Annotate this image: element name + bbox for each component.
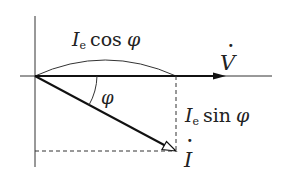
sin-component-label: Iesinφ [184, 104, 250, 128]
cos-component-arc [35, 60, 176, 76]
angle-label: φ [101, 87, 114, 108]
phasor-diagram: Iecosφ φ Iesinφ · V · I [0, 0, 287, 189]
current-label: I [183, 148, 193, 172]
current-arrowhead-icon [162, 142, 176, 152]
cos-component-label: Iecosφ [71, 28, 141, 52]
angle-arc [89, 76, 97, 105]
voltage-label: V [220, 51, 237, 75]
